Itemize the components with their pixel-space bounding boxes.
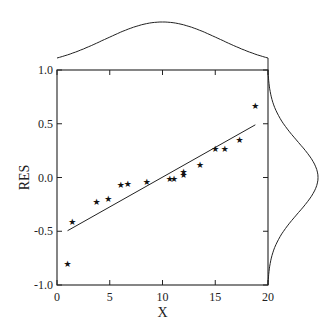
data-point-star: ★ bbox=[251, 101, 259, 111]
data-points: ★★★★★★★★★★★★★★★★ bbox=[64, 101, 260, 268]
x-tick-label: 20 bbox=[262, 290, 274, 304]
data-point-star: ★ bbox=[235, 135, 243, 145]
data-point-star: ★ bbox=[196, 160, 204, 170]
y-tick-label: -1.0 bbox=[34, 278, 53, 292]
scatter-chart: 05101520 1.00.50.0-0.5-1.0 ★★★★★★★★★★★★★… bbox=[0, 0, 333, 332]
top-marginal-density-curve bbox=[57, 22, 268, 70]
x-tick-label: 5 bbox=[107, 290, 113, 304]
x-tick-label: 0 bbox=[54, 290, 60, 304]
x-tick-label: 10 bbox=[157, 290, 169, 304]
data-point-star: ★ bbox=[104, 194, 112, 204]
data-point-star: ★ bbox=[180, 167, 188, 177]
data-point-star: ★ bbox=[68, 217, 76, 227]
regression-fit-line bbox=[68, 125, 256, 231]
y-axis-title: RES bbox=[17, 165, 32, 191]
right-marginal-density-curve bbox=[268, 70, 318, 285]
data-point-star: ★ bbox=[221, 144, 229, 154]
data-point-star: ★ bbox=[143, 177, 151, 187]
y-tick-label: 1.0 bbox=[38, 63, 53, 77]
y-tick-label: 0.0 bbox=[38, 171, 53, 185]
y-axis-ticks: 1.00.50.0-0.5-1.0 bbox=[34, 63, 268, 292]
data-point-star: ★ bbox=[211, 144, 219, 154]
x-axis-title: X bbox=[157, 305, 167, 320]
y-tick-label: -0.5 bbox=[34, 224, 53, 238]
data-point-star: ★ bbox=[64, 259, 72, 269]
data-point-star: ★ bbox=[170, 174, 178, 184]
y-tick-label: 0.5 bbox=[38, 117, 53, 131]
data-point-star: ★ bbox=[124, 179, 132, 189]
x-axis-ticks: 05101520 bbox=[54, 70, 274, 304]
data-point-star: ★ bbox=[93, 197, 101, 207]
x-tick-label: 15 bbox=[209, 290, 221, 304]
